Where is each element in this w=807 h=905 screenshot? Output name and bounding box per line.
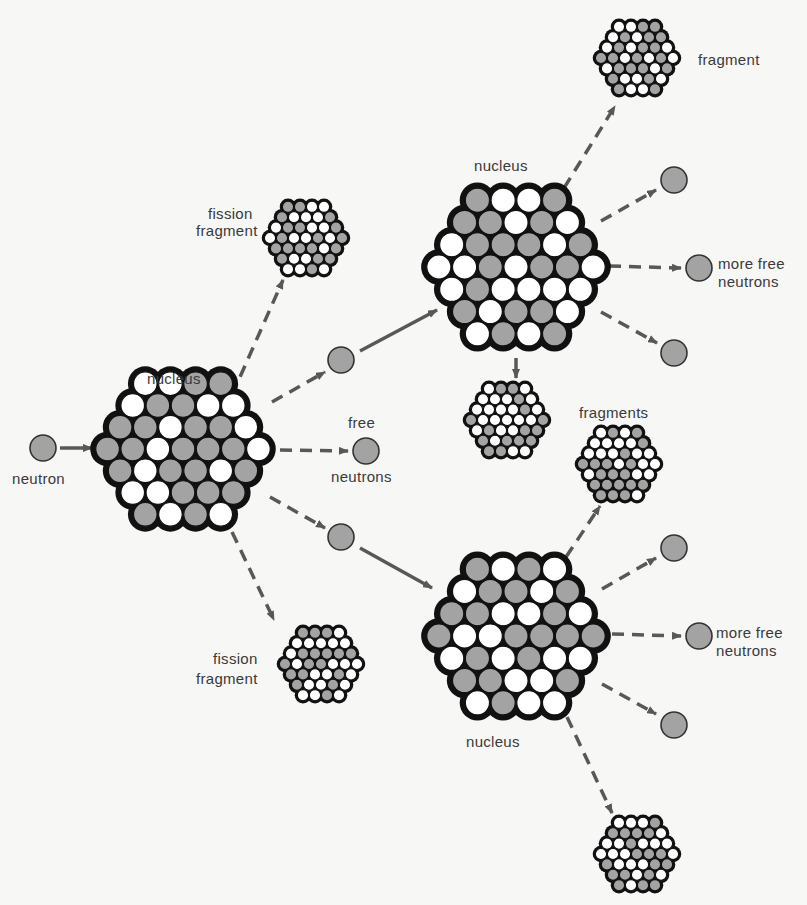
- neutron-nucleon-icon: [264, 232, 275, 243]
- arrow-nucleus-3-to-fragment-6: [567, 717, 612, 813]
- neutron-nucleon-icon: [531, 404, 542, 415]
- neutron-nucleon-icon: [465, 691, 489, 715]
- neutron-nucleon-icon: [631, 490, 642, 501]
- proton-nucleon-icon: [542, 322, 566, 346]
- neutron-nucleon-icon: [589, 438, 600, 449]
- proton-nucleon-icon: [643, 848, 654, 859]
- neutron-nucleon-icon: [315, 638, 326, 649]
- neutron-nucleon-icon: [613, 438, 624, 449]
- neutron-nucleon-icon: [300, 232, 311, 243]
- arrow-nucleus-1-to-fragment-2: [232, 532, 274, 620]
- neutron-nucleon-icon: [339, 638, 350, 649]
- proton-nucleon-icon: [589, 479, 600, 490]
- neutron-nucleon-icon: [291, 658, 302, 669]
- neutron-lower-icon: [328, 524, 354, 550]
- proton-nucleon-icon: [513, 394, 524, 405]
- neutron-initial-icon: [30, 435, 56, 461]
- neutron-nucleon-icon: [542, 277, 566, 301]
- fission-chain-diagram: [0, 0, 807, 905]
- fragments-layer: [262, 19, 682, 894]
- neutron-nucleon-icon: [478, 624, 502, 648]
- neutron-nucleon-icon: [613, 21, 624, 32]
- proton-nucleon-icon: [440, 602, 464, 626]
- proton-nucleon-icon: [345, 648, 356, 659]
- proton-nucleon-icon: [309, 627, 320, 638]
- neutron-nucleon-icon: [300, 212, 311, 223]
- proton-nucleon-icon: [312, 253, 323, 264]
- neutron-nucleon-icon: [637, 838, 648, 849]
- neutron-nucleon-icon: [667, 52, 678, 63]
- proton-nucleon-icon: [530, 299, 554, 323]
- proton-nucleon-icon: [495, 446, 506, 457]
- proton-nucleon-icon: [452, 668, 476, 692]
- neutron-nucleon-icon: [501, 414, 512, 425]
- neutron-nucleon-icon: [517, 188, 541, 212]
- neutron-nucleon-icon: [491, 188, 515, 212]
- label-fragments-middle: fragments: [579, 404, 648, 421]
- label-nucleus-upper-right: nucleus: [474, 157, 528, 174]
- neutron-upper-icon: [328, 347, 354, 373]
- neutron-nucleon-icon: [607, 32, 618, 43]
- proton-nucleon-icon: [589, 458, 600, 469]
- proton-nucleon-icon: [324, 212, 335, 223]
- neutron-nucleon-icon: [625, 880, 636, 891]
- proton-nucleon-icon: [279, 658, 290, 669]
- proton-nucleon-icon: [491, 322, 515, 346]
- neutron-nucleon-icon: [294, 264, 305, 275]
- label-nucleus-lower-right: nucleus: [466, 733, 520, 750]
- proton-nucleon-icon: [613, 880, 624, 891]
- proton-nucleon-icon: [96, 437, 120, 461]
- neutron-nucleon-icon: [643, 52, 654, 63]
- proton-nucleon-icon: [108, 415, 132, 439]
- neutron-nucleon-icon: [631, 469, 642, 480]
- proton-nucleon-icon: [312, 232, 323, 243]
- neutron-nucleon-icon: [655, 869, 666, 880]
- proton-nucleon-icon: [607, 73, 618, 84]
- neutron-nucleon-icon: [345, 669, 356, 680]
- neutron-nucleon-icon: [121, 394, 145, 418]
- proton-nucleon-icon: [133, 503, 157, 527]
- proton-nucleon-icon: [607, 427, 618, 438]
- neutron-nucleon-icon: [306, 201, 317, 212]
- neutron-nucleon-icon: [285, 648, 296, 659]
- label-fission-fragment-bottom-line2: fragment: [196, 670, 258, 687]
- proton-nucleon-icon: [478, 579, 502, 603]
- proton-nucleon-icon: [333, 669, 344, 680]
- arrow-nucleus-3-to-fragment-5: [566, 506, 600, 557]
- proton-nucleon-icon: [542, 602, 566, 626]
- proton-nucleon-icon: [655, 848, 666, 859]
- proton-nucleon-icon: [465, 646, 489, 670]
- neutron-nucleon-icon: [440, 277, 464, 301]
- neutron-nucleon-icon: [478, 299, 502, 323]
- neutron-nucleon-icon: [312, 212, 323, 223]
- neutron-nucleon-icon: [631, 869, 642, 880]
- neutron-nucleon-icon: [661, 838, 672, 849]
- neutron-nucleon-icon: [513, 414, 524, 425]
- proton-nucleon-icon: [601, 458, 612, 469]
- neutron-nucleon-icon: [542, 691, 566, 715]
- neutron-ur-1-icon: [661, 167, 687, 193]
- neutron-nucleon-icon: [495, 404, 506, 415]
- neutron-nucleon-icon: [477, 394, 488, 405]
- proton-nucleon-icon: [501, 435, 512, 446]
- fragment-4: [463, 381, 552, 460]
- neutron-nucleon-icon: [196, 394, 220, 418]
- proton-nucleon-icon: [517, 557, 541, 581]
- proton-nucleon-icon: [321, 690, 332, 701]
- arrow-neutron-upper-to-nucleus-2: [360, 310, 437, 351]
- neutron-nucleon-icon: [581, 255, 605, 279]
- proton-nucleon-icon: [495, 383, 506, 394]
- proton-nucleon-icon: [655, 32, 666, 43]
- proton-nucleon-icon: [649, 817, 660, 828]
- proton-nucleon-icon: [568, 233, 592, 257]
- proton-nucleon-icon: [643, 869, 654, 880]
- neutron-nucleon-icon: [221, 394, 245, 418]
- neutron-nucleon-icon: [595, 427, 606, 438]
- neutron-nucleon-icon: [501, 394, 512, 405]
- proton-nucleon-icon: [613, 84, 624, 95]
- proton-nucleon-icon: [649, 42, 660, 53]
- neutron-nucleon-icon: [619, 427, 630, 438]
- proton-nucleon-icon: [465, 557, 489, 581]
- proton-nucleon-icon: [643, 828, 654, 839]
- proton-nucleon-icon: [477, 435, 488, 446]
